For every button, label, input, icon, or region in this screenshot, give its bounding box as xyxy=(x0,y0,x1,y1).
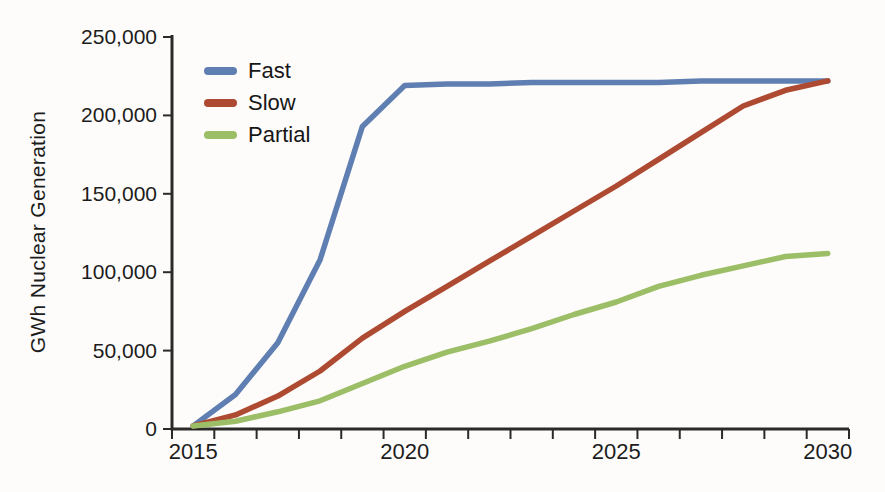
x-tick-label: 2020 xyxy=(380,439,429,464)
series-line-partial xyxy=(193,253,828,426)
legend-item-partial: Partial xyxy=(204,119,310,151)
y-tick-label: 0 xyxy=(145,417,157,440)
y-axis-title: GWh Nuclear Generation xyxy=(26,111,50,353)
y-tick-label: 250,000 xyxy=(81,25,157,48)
partial-series-swatch xyxy=(204,131,237,139)
nuclear-generation-line-chart: 050,000100,000150,000200,000250,00020152… xyxy=(0,0,885,492)
y-tick-label: 200,000 xyxy=(81,103,157,126)
x-tick-label: 2015 xyxy=(169,439,218,464)
legend-item-fast: Fast xyxy=(204,55,310,87)
legend-label-slow: Slow xyxy=(248,90,296,116)
legend-label-fast: Fast xyxy=(248,58,291,84)
slow-series-swatch xyxy=(204,99,237,107)
x-tick-label: 2025 xyxy=(592,439,641,464)
x-tick-label: 2030 xyxy=(803,439,852,464)
y-tick-label: 150,000 xyxy=(81,182,157,205)
chart-plot-area: 050,000100,000150,000200,000250,00020152… xyxy=(0,0,885,492)
fast-series-swatch xyxy=(204,67,237,75)
y-tick-label: 100,000 xyxy=(81,260,157,283)
y-tick-label: 50,000 xyxy=(93,339,157,362)
legend-label-partial: Partial xyxy=(248,122,310,148)
chart-legend: Fast Slow Partial xyxy=(204,55,310,151)
legend-item-slow: Slow xyxy=(204,87,310,119)
